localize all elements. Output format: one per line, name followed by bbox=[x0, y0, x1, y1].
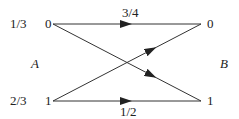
channel-diagram: 1/3 2/3 0 1 A B 0 1 3/4 1/2 bbox=[0, 0, 239, 119]
edge-label-a0-b0: 3/4 bbox=[122, 5, 139, 20]
node-a0-label: 0 bbox=[45, 16, 52, 31]
node-b1-label: 1 bbox=[207, 93, 214, 108]
set-label-a: A bbox=[30, 56, 39, 71]
prob-label-a1: 2/3 bbox=[10, 93, 27, 108]
prob-label-a0: 1/3 bbox=[10, 16, 27, 31]
node-a1-label: 1 bbox=[45, 93, 52, 108]
node-b0-label: 0 bbox=[207, 16, 214, 31]
set-label-b: B bbox=[220, 56, 228, 71]
edge-label-a1-b1: 1/2 bbox=[120, 104, 137, 119]
